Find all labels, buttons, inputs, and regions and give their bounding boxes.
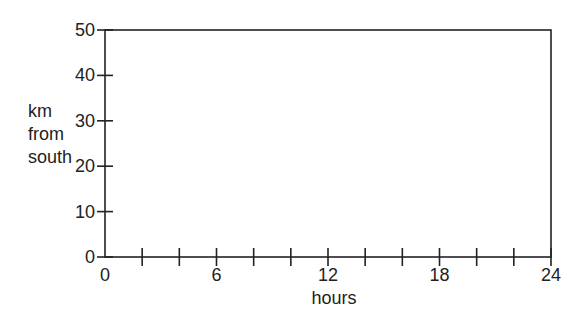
y-tick-label: 40 [75,65,95,85]
x-tick-label: 18 [429,265,449,285]
plot-frame [105,30,551,257]
y-tick-label: 10 [75,202,95,222]
y-axis-label: south [28,147,72,167]
x-tick-label: 12 [318,265,338,285]
y-axis-label: km [28,101,52,121]
x-tick-label: 6 [211,265,221,285]
y-axis-label: from [28,124,64,144]
y-tick-label: 30 [75,111,95,131]
x-axis-label: hours [311,288,356,308]
x-tick-label: 0 [100,265,110,285]
chart: 0102030405006121824hourskmfromsouth [0,0,583,320]
x-tick-label: 24 [541,265,561,285]
y-tick-label: 20 [75,156,95,176]
y-tick-label: 50 [75,20,95,40]
y-tick-label: 0 [85,247,95,267]
